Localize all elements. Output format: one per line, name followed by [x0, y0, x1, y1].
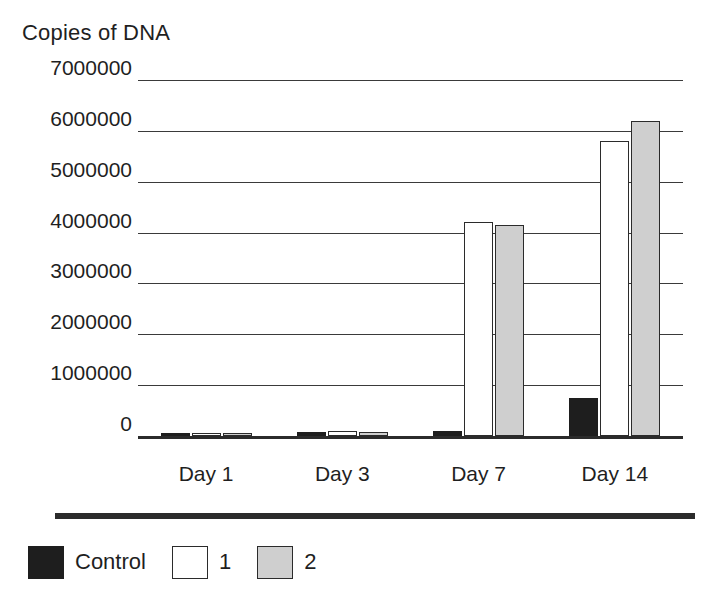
bar-day-3-1	[328, 431, 357, 436]
bar-group	[547, 80, 683, 436]
bar-day-1-2	[223, 433, 252, 436]
legend-label: 2	[304, 549, 316, 575]
legend-item: Control	[28, 546, 172, 579]
x-tick-label: Day 7	[411, 462, 547, 486]
legend-swatch-1	[172, 546, 208, 579]
bar-day-14-control	[569, 398, 598, 436]
bar-day-1-1	[192, 433, 221, 436]
legend-label: Control	[75, 549, 146, 575]
legend-item: 1	[172, 546, 257, 579]
bar-day-14-2	[631, 121, 660, 436]
y-tick-label: 6000000	[50, 107, 138, 131]
x-tick-label: Day 14	[547, 462, 683, 486]
y-axis-tick-labels: 0100000020000003000000400000050000006000…	[0, 80, 138, 436]
y-tick-label: 4000000	[50, 209, 138, 233]
x-tick-label: Day 1	[138, 462, 274, 486]
bar-day-3-control	[297, 432, 326, 436]
chart-legend: Control12	[28, 541, 342, 583]
y-tick-label: 5000000	[50, 158, 138, 182]
y-tick-label: 0	[120, 412, 138, 436]
y-axis-title: Copies of DNA	[22, 20, 170, 46]
x-tick-label: Day 3	[274, 462, 410, 486]
legend-swatch-control	[28, 546, 64, 579]
legend-item: 2	[257, 546, 342, 579]
bar-day-7-1	[464, 222, 493, 436]
bar-day-3-2	[359, 432, 388, 436]
bar-day-7-control	[433, 431, 462, 436]
axis-baseline	[138, 436, 683, 439]
bar-day-7-2	[495, 225, 524, 436]
bar-day-14-1	[600, 141, 629, 436]
y-tick-label: 7000000	[50, 56, 138, 80]
bar-group	[411, 80, 547, 436]
y-tick-label: 2000000	[50, 310, 138, 334]
x-axis-category-labels: Day 1Day 3Day 7Day 14	[138, 462, 683, 496]
bar-day-1-control	[161, 433, 190, 436]
legend-swatch-2	[257, 546, 293, 579]
bar-group	[274, 80, 410, 436]
bar-chart-figure: Copies of DNA 01000000200000030000004000…	[0, 0, 713, 604]
plot-bars	[138, 80, 683, 436]
y-tick-label: 3000000	[50, 259, 138, 283]
bar-group	[138, 80, 274, 436]
y-tick-label: 1000000	[50, 361, 138, 385]
legend-separator-rule	[55, 513, 695, 519]
legend-label: 1	[219, 549, 231, 575]
